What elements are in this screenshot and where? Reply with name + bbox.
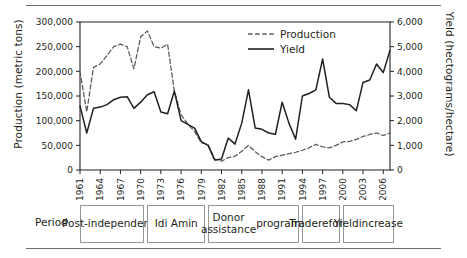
y-axis-tick-label-right: 1,000 [397,141,423,151]
chart-plot-area: 050,000100,000150,000200,000250,000300,0… [0,10,467,200]
y-axis-tick-label-right: 0 [397,165,403,175]
x-axis-tick-label: 1970 [136,178,146,200]
period-box-label: Idi Amin [155,218,198,230]
series-line-production [80,31,390,161]
x-axis-tick-label: 2003 [358,178,368,200]
legend-label-yield: Yield [279,43,305,55]
period-box-label: Post- [62,218,88,230]
x-axis-tick-label: 1967 [116,178,126,200]
figure-top-rule [26,5,441,6]
x-axis-tick-label: 1973 [156,178,166,200]
period-box-label: Yield [334,218,359,230]
y-axis-tick-label-left: 150,000 [36,91,73,101]
x-axis-tick-label: 1994 [298,178,308,200]
axis-frame [80,22,390,170]
y-axis-tick-label-left: 100,000 [36,116,73,126]
x-axis-tick-label: 1964 [95,178,105,200]
legend-label-production: Production [280,28,336,40]
y-axis-tick-label-right: 2,000 [397,116,423,126]
y-axis-tick-label-left: 250,000 [36,42,73,52]
x-axis-tick-label: 1979 [197,178,207,200]
y-axis-tick-label-right: 6,000 [397,17,423,27]
period-box-label: Donor assistance [201,212,256,236]
figure-container: Production (metric tons) Yield (hectogra… [0,0,467,258]
series-line-yield [80,50,390,160]
x-axis-tick-label: 1991 [277,178,287,200]
period-box-label: Trade [289,218,318,230]
x-axis-tick-label: 1985 [237,178,247,200]
x-axis-tick-label: 2000 [338,178,348,200]
period-box-list: Post-independenceIdi AminDonor assistanc… [80,205,394,243]
y-axis-tick-label-left: 50,000 [42,141,74,151]
line-chart: 050,000100,000150,000200,000250,000300,0… [0,10,467,200]
figure-bottom-rule [26,248,441,249]
y-axis-tick-label-left: 200,000 [36,67,73,77]
x-axis-tick-label: 1976 [176,178,186,200]
x-axis-tick-label: 1961 [75,178,85,200]
y-axis-tick-label-right: 3,000 [397,91,423,101]
x-axis-tick-label: 1997 [318,178,328,200]
y-axis-tick-label-right: 5,000 [397,42,423,52]
y-axis-tick-label-right: 4,000 [397,67,423,77]
x-axis-tick-label: 2006 [378,178,388,200]
y-axis-tick-label-left: 300,000 [36,17,73,27]
period-box[interactable]: Post-independence [80,205,144,243]
y-axis-tick-label-left: 0 [67,165,73,175]
x-axis-tick-label: 1982 [217,178,227,200]
period-box[interactable]: Donor assistanceprograms [208,205,299,243]
period-box[interactable]: Idi Amin [147,205,205,243]
period-timeline: Period Post-independenceIdi AminDonor as… [0,205,467,245]
period-box-label: increase [359,218,403,230]
period-box[interactable]: Yieldincrease [343,205,394,243]
x-axis-tick-label: 1988 [257,178,267,200]
